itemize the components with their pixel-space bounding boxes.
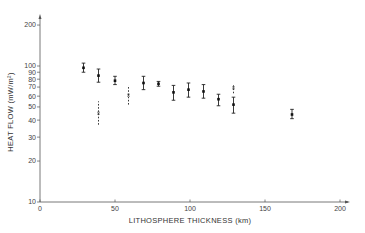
x-axis-arrow-icon	[345, 201, 350, 204]
data-point	[82, 63, 86, 72]
x-axis-title: LITHOSPHERE THICKNESS (km)	[129, 216, 252, 225]
data-point	[290, 109, 294, 118]
data-point	[142, 76, 146, 89]
y-tick-label: 20	[28, 157, 36, 164]
heat-flow-chart: 050100150200102030405060708090100200 LIT…	[0, 0, 365, 233]
y-tick-label: 70	[28, 83, 36, 90]
data-point	[157, 81, 161, 86]
x-tick-label: 100	[184, 205, 196, 212]
y-tick-label: 30	[28, 134, 36, 141]
y-tick-label: 80	[28, 76, 36, 83]
y-tick-label: 60	[28, 93, 36, 100]
y-axis-arrow-icon	[39, 14, 42, 19]
y-tick-label: 100	[24, 62, 36, 69]
y-axis-title: HEAT FLOW (mW/m²)	[6, 72, 15, 152]
plot-area	[82, 63, 294, 125]
x-tick-label: 150	[259, 205, 271, 212]
data-point	[217, 94, 221, 106]
data-point	[97, 69, 101, 82]
y-tick-label: 90	[28, 69, 36, 76]
y-tick-label: 200	[24, 21, 36, 28]
data-point	[187, 83, 191, 97]
x-tick-label: 0	[38, 205, 42, 212]
data-point	[172, 85, 176, 100]
y-tick-label: 50	[28, 103, 36, 110]
axes: 050100150200102030405060708090100200	[24, 14, 350, 212]
data-point	[113, 76, 117, 84]
y-tick-label: 40	[28, 117, 36, 124]
data-point	[232, 97, 236, 113]
data-point-dashed	[232, 84, 235, 94]
x-tick-label: 200	[334, 205, 346, 212]
data-point	[202, 85, 206, 99]
data-point-dashed	[97, 101, 100, 124]
y-tick-label: 10	[28, 198, 36, 205]
x-tick-label: 50	[111, 205, 119, 212]
data-point-dashed	[127, 85, 130, 104]
